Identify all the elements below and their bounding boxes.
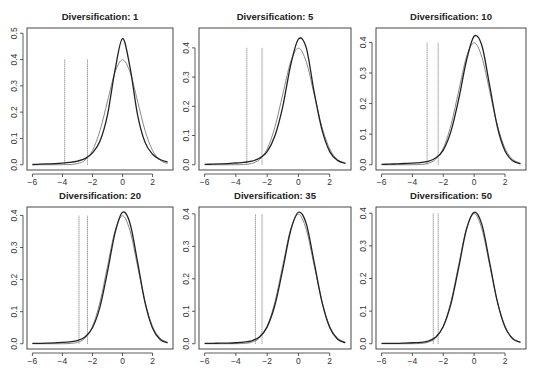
x-tick-label: −6 — [28, 177, 38, 187]
y-tick-label: 0.4 — [181, 42, 191, 54]
y-tick-label: 0.5 — [9, 27, 19, 39]
x-tick-label: 0 — [472, 177, 477, 187]
x-axis: −6−4−202 — [200, 353, 333, 366]
y-axis: 0.00.10.20.30.4 — [181, 208, 195, 350]
y-tick-label: 0.3 — [181, 240, 191, 252]
y-tick-label: 0.4 — [181, 208, 191, 220]
y-tick-label: 0.2 — [9, 273, 19, 285]
y-tick-label: 0.1 — [9, 132, 19, 144]
x-axis: −6−4−202 — [28, 174, 156, 187]
x-tick-label: −2 — [438, 356, 448, 366]
x-axis: −6−4−202 — [377, 174, 508, 187]
plot-frame — [27, 28, 173, 170]
y-tick-label: 0.3 — [181, 71, 191, 83]
y-axis: 0.00.10.20.30.4 — [9, 209, 23, 349]
y-tick-label: 0.3 — [358, 240, 368, 252]
x-tick-label: 2 — [150, 356, 155, 366]
x-tick-label: −2 — [262, 177, 272, 187]
x-axis: −6−4−202 — [28, 353, 156, 366]
y-tick-label: 0.0 — [181, 338, 191, 350]
x-axis: −6−4−202 — [377, 353, 508, 366]
y-axis: 0.00.10.20.30.4 — [358, 207, 372, 350]
panel-title: Diversification: 10 — [410, 11, 492, 22]
y-tick-label: 0.3 — [9, 241, 19, 253]
x-tick-label: 0 — [120, 356, 125, 366]
y-tick-label: 0.4 — [358, 207, 368, 219]
x-tick-label: −2 — [438, 177, 448, 187]
panel-title: Diversification: 20 — [59, 190, 141, 201]
y-tick-label: 0.0 — [358, 159, 368, 171]
y-tick-label: 0.2 — [181, 100, 191, 112]
panel-4: Diversification: 20−6−4−2020.00.10.20.30… — [9, 190, 173, 366]
x-tick-label: 2 — [327, 356, 332, 366]
x-tick-label: 0 — [472, 356, 477, 366]
panel-title: Diversification: 50 — [410, 190, 492, 201]
y-tick-label: 0.1 — [9, 305, 19, 317]
x-axis: −6−4−202 — [200, 174, 333, 187]
x-tick-label: −4 — [58, 356, 68, 366]
empirical-density-curve — [382, 212, 521, 343]
panel-1: Diversification: 1−6−4−2020.00.10.20.30.… — [9, 11, 173, 187]
x-tick-label: −6 — [200, 356, 210, 366]
empirical-density-curve — [205, 212, 346, 343]
x-tick-label: 2 — [503, 356, 508, 366]
y-tick-label: 0.0 — [358, 338, 368, 350]
y-tick-label: 0.3 — [9, 80, 19, 92]
normal-density-curve — [205, 214, 346, 344]
plot-frame — [376, 207, 526, 349]
x-tick-label: −2 — [88, 177, 98, 187]
y-tick-label: 0.4 — [358, 36, 368, 48]
y-tick-label: 0.1 — [181, 129, 191, 141]
normal-density-curve — [382, 43, 521, 165]
y-tick-label: 0.1 — [181, 305, 191, 317]
panel-title: Diversification: 35 — [234, 190, 317, 201]
x-tick-label: −6 — [377, 177, 387, 187]
x-tick-label: 2 — [503, 177, 508, 187]
y-tick-label: 0.1 — [358, 305, 368, 317]
x-tick-label: −4 — [231, 177, 241, 187]
x-tick-label: 0 — [296, 177, 301, 187]
x-tick-label: 0 — [120, 177, 125, 187]
x-tick-label: 2 — [327, 177, 332, 187]
y-tick-label: 0.4 — [9, 53, 19, 65]
x-tick-label: −4 — [231, 356, 241, 366]
figure: Diversification: 1−6−4−2020.00.10.20.30.… — [0, 0, 536, 370]
y-tick-label: 0.2 — [358, 272, 368, 284]
panel-title: Diversification: 5 — [237, 11, 314, 22]
x-tick-label: −6 — [200, 177, 210, 187]
x-tick-label: 0 — [296, 356, 301, 366]
empirical-density-curve — [32, 212, 167, 344]
normal-density-curve — [32, 216, 167, 344]
y-tick-label: 0.4 — [9, 209, 19, 221]
panel-3: Diversification: 10−6−4−2020.00.10.20.30… — [358, 11, 526, 187]
empirical-density-curve — [32, 39, 167, 165]
panel-6: Diversification: 50−6−4−2020.00.10.20.30… — [358, 190, 526, 366]
x-tick-label: 2 — [150, 177, 155, 187]
x-tick-label: −2 — [88, 356, 98, 366]
panel-title: Diversification: 1 — [62, 11, 139, 22]
y-tick-label: 0.0 — [9, 338, 19, 350]
y-tick-label: 0.1 — [358, 128, 368, 140]
normal-density-curve — [205, 48, 346, 165]
y-axis: 0.00.10.20.30.4 — [358, 36, 372, 170]
x-tick-label: −6 — [377, 356, 387, 366]
x-tick-label: −6 — [28, 356, 38, 366]
plot-frame — [27, 207, 173, 349]
panel-5: Diversification: 35−6−4−2020.00.10.20.30… — [181, 190, 351, 366]
empirical-density-curve — [205, 38, 346, 164]
x-tick-label: −4 — [408, 177, 418, 187]
x-tick-label: −4 — [408, 356, 418, 366]
normal-density-curve — [32, 60, 167, 165]
y-tick-label: 0.2 — [181, 273, 191, 285]
y-axis: 0.00.10.20.30.40.5 — [9, 27, 23, 171]
y-tick-label: 0.2 — [358, 97, 368, 109]
y-axis: 0.00.10.20.30.4 — [181, 42, 195, 171]
empirical-density-curve — [382, 36, 521, 165]
plot-frame — [199, 207, 351, 349]
y-tick-label: 0.0 — [9, 159, 19, 171]
y-tick-label: 0.0 — [181, 159, 191, 171]
y-tick-label: 0.2 — [9, 106, 19, 118]
panel-2: Diversification: 5−6−4−2020.00.10.20.30.… — [181, 11, 351, 187]
x-tick-label: −2 — [262, 356, 272, 366]
normal-density-curve — [382, 214, 521, 344]
